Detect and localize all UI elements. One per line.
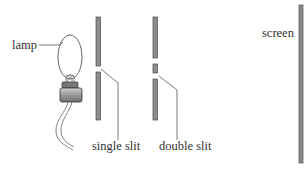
double-slit-leader-line bbox=[159, 76, 177, 140]
screen: screen bbox=[262, 5, 303, 163]
lamp-wires bbox=[56, 102, 74, 150]
screen-bar bbox=[299, 5, 303, 163]
double-slit-diagram: lamp single slit double slit screen bbox=[0, 0, 305, 169]
lamp-base bbox=[60, 88, 82, 102]
double-slit-middle bbox=[153, 64, 158, 73]
double-slit-label: double slit bbox=[159, 139, 212, 153]
single-slit-barrier: single slit bbox=[92, 17, 141, 153]
screen-label: screen bbox=[262, 26, 295, 40]
double-slit-bottom bbox=[153, 79, 158, 120]
lamp-neck bbox=[62, 82, 78, 88]
single-slit-label: single slit bbox=[92, 139, 141, 153]
lamp-bulb bbox=[58, 35, 82, 79]
lamp: lamp bbox=[12, 35, 82, 150]
lamp-label: lamp bbox=[12, 38, 37, 52]
single-slit-bottom bbox=[96, 72, 101, 120]
single-slit-leader-line bbox=[101, 69, 118, 140]
double-slit-top bbox=[153, 17, 158, 58]
double-slit-barrier: double slit bbox=[153, 17, 212, 153]
single-slit-top bbox=[96, 17, 101, 66]
